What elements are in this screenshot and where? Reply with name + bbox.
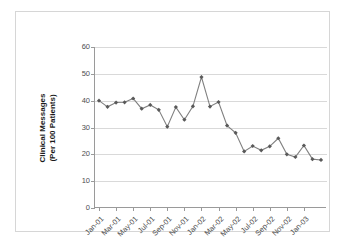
y-tick-label: 60 [82, 43, 90, 51]
x-axis-labels: Jan-01Mar-01May-01Jul-01Sep-01Nov-01Jan-… [94, 209, 326, 239]
y-axis-title: Clinical Messages (Per 100 Patients) [36, 47, 60, 208]
series-line [99, 77, 321, 160]
y-tick-label: 20 [82, 151, 90, 159]
data-point-marker [157, 108, 161, 112]
data-series [95, 47, 327, 208]
data-point-marker [114, 100, 118, 104]
y-tick-label: 10 [82, 177, 90, 185]
plot-area: 0102030405060 [94, 47, 326, 208]
data-point-marker [165, 125, 169, 129]
y-tick-label: 50 [82, 70, 90, 78]
y-axis-title-line-2: (Per 100 Patients) [48, 93, 58, 162]
data-point-marker [208, 104, 212, 108]
y-tick-label: 0 [86, 204, 90, 212]
y-tick-label: 30 [82, 124, 90, 132]
chart-frame: Clinical Messages (Per 100 Patients) 010… [15, 11, 330, 232]
data-point-marker [199, 75, 203, 79]
data-point-marker [319, 158, 323, 162]
y-axis-title-line-1: Clinical Messages [38, 93, 48, 162]
data-point-marker [285, 152, 289, 156]
data-point-marker [259, 148, 263, 152]
data-point-marker [148, 103, 152, 107]
data-point-marker [123, 100, 127, 104]
chart-figure: Clinical Messages (Per 100 Patients) 010… [0, 0, 344, 239]
y-tick-label: 40 [82, 97, 90, 105]
data-point-marker [216, 100, 220, 104]
